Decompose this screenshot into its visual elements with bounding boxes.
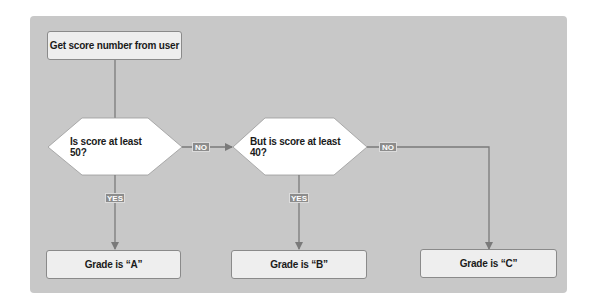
d1-no-tag: NO: [192, 142, 210, 152]
grade-a-box: Grade is “A”: [46, 250, 181, 279]
d1-yes-tag: YES: [105, 193, 125, 203]
decision1-label: Is score at least 50?: [70, 138, 160, 156]
grade-b-box: Grade is “B”: [231, 250, 367, 279]
decision2-label: But is score at least 40?: [250, 138, 350, 156]
start-box: Get score number from user: [47, 31, 182, 60]
d2-no-tag: NO: [379, 142, 397, 152]
grade-c-box: Grade is “C”: [420, 249, 557, 278]
d2-yes-tag: YES: [289, 193, 309, 203]
